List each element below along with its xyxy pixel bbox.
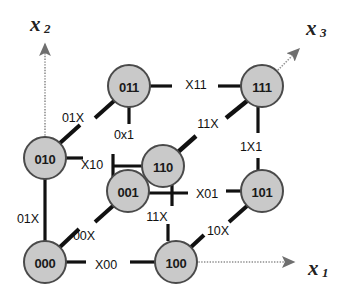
edge-111-11X <box>226 101 247 118</box>
axis-label-x3: x 3 <box>305 16 327 40</box>
edge-001-00X <box>95 205 114 222</box>
node-100[interactable]: 100 <box>155 241 197 283</box>
node-000[interactable]: 000 <box>24 241 66 283</box>
axis-label-x2-sub: 2 <box>43 21 51 36</box>
diagram-canvas: 000 010 100 110 001 011 101 111 <box>0 0 352 303</box>
edge-100-10X <box>190 235 204 248</box>
node-001[interactable]: 001 <box>107 170 149 212</box>
edge-label-01X-upper: 01X <box>62 111 85 125</box>
edge-010-01X <box>60 125 80 143</box>
node-101[interactable]: 101 <box>241 170 283 212</box>
axis-label-x1-sub: 1 <box>322 265 329 280</box>
edge-label-11X-upper: 11X <box>197 117 219 131</box>
node-011-label: 011 <box>119 80 139 95</box>
edge-label-11X-lower: 11X <box>146 210 168 224</box>
node-111[interactable]: 111 <box>241 65 283 107</box>
hypercube-svg: 000 010 100 110 001 011 101 111 <box>0 0 352 303</box>
axis-label-x1-base: x <box>307 256 319 280</box>
axis-label-x2: x 2 <box>29 12 51 36</box>
node-010[interactable]: 010 <box>24 137 66 179</box>
edge-label-X11: X11 <box>185 78 206 92</box>
edge-label-X00: X00 <box>95 258 117 272</box>
edge-label-0x1: 0x1 <box>114 128 134 142</box>
edge-label-00X: 00X <box>73 229 96 243</box>
node-101-label: 101 <box>252 185 273 200</box>
node-001-label: 001 <box>118 185 139 200</box>
axis-label-x2-base: x <box>29 12 41 36</box>
edge-label-01X-lower: 01X <box>17 212 40 226</box>
node-110-label: 110 <box>153 160 173 175</box>
edge-110-11X <box>178 136 196 152</box>
axis-label-x3-base: x <box>305 16 317 40</box>
node-000-label: 000 <box>35 256 56 271</box>
node-100-label: 100 <box>166 256 187 271</box>
edge-label-10X: 10X <box>207 224 230 238</box>
node-010-label: 010 <box>35 152 56 167</box>
axis-label-x1: x 1 <box>307 256 329 280</box>
edge-101-10X <box>229 206 247 222</box>
node-110[interactable]: 110 <box>142 145 184 187</box>
axis-label-x3-sub: 3 <box>319 25 327 40</box>
edge-label-1X1: 1X1 <box>240 140 262 154</box>
node-011[interactable]: 011 <box>108 65 150 107</box>
node-111-label: 111 <box>252 80 271 95</box>
edge-label-X01: X01 <box>196 187 218 201</box>
edge-label-X10: X10 <box>81 158 103 172</box>
edge-011-01X <box>95 101 114 118</box>
